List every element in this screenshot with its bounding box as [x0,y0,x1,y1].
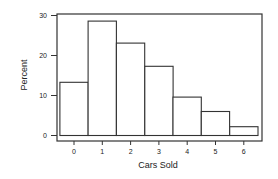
bar-1 [88,21,116,135]
x-tick-label: 3 [157,148,161,155]
bar-5 [201,112,229,136]
y-tick-label: 30 [39,12,47,19]
bar-4 [173,97,201,135]
y-tick-label: 0 [43,132,47,139]
x-axis-title: Cars Sold [138,160,178,170]
x-axis: 0123456 [72,141,246,155]
x-tick-label: 6 [242,148,246,155]
y-axis-title: Percent [19,59,29,91]
x-tick-label: 4 [185,148,189,155]
x-tick-label: 0 [72,148,76,155]
bar-2 [116,43,144,135]
x-tick-label: 1 [100,148,104,155]
y-axis: 0102030 [39,12,57,139]
bars [60,21,258,135]
bar-6 [230,127,258,136]
y-tick-label: 20 [39,52,47,59]
histogram-chart: 0102030 0123456 Percent Cars Sold [0,0,278,179]
x-tick-label: 5 [214,148,218,155]
x-tick-label: 2 [129,148,133,155]
bar-0 [60,82,88,135]
bar-3 [145,66,173,135]
y-tick-label: 10 [39,92,47,99]
